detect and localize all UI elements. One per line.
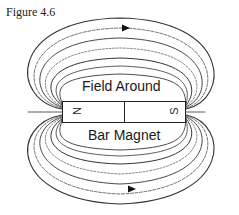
caption-line2: Bar Magnet — [88, 127, 160, 143]
magnet-divider — [124, 102, 125, 122]
south-pole-label: S — [167, 107, 179, 114]
north-pole-label: N — [71, 107, 83, 115]
caption-line1: Field Around — [82, 78, 161, 94]
bar-magnet: N S — [62, 101, 186, 123]
arrow-right-icon — [128, 186, 136, 193]
arrow-right-icon — [122, 25, 130, 32]
